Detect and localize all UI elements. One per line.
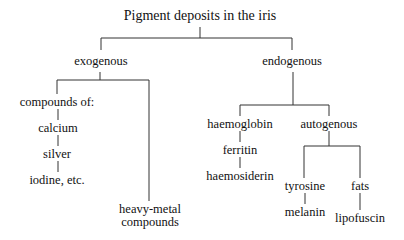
node-calcium: calcium [38, 122, 78, 135]
node-compounds-of: compounds of: [20, 96, 95, 109]
node-silver: silver [43, 148, 71, 161]
node-melanin: melanin [285, 206, 325, 219]
node-ferritin: ferritin [223, 144, 258, 157]
node-endogenous: endogenous [262, 55, 322, 68]
node-lipofuscin: lipofuscin [335, 212, 385, 225]
node-fats: fats [351, 180, 369, 193]
node-heavy-metal-line2: compounds [121, 216, 179, 229]
root-node: Pigment deposits in the iris [124, 9, 276, 22]
node-exogenous: exogenous [74, 55, 127, 68]
node-iodine: iodine, etc. [29, 174, 84, 187]
node-haemoglobin: haemoglobin [207, 118, 272, 131]
node-tyrosine: tyrosine [285, 180, 325, 193]
node-haemosiderin: haemosiderin [206, 170, 273, 183]
node-autogenous: autogenous [301, 118, 358, 131]
